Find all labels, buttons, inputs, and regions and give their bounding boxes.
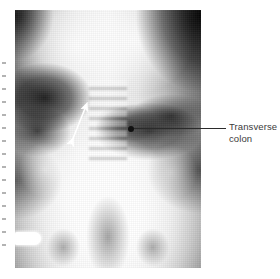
film-grain-overlay <box>15 10 201 268</box>
figure-root: Transverse colon <box>0 0 280 279</box>
transverse-colon-leader-line <box>134 128 226 129</box>
double-headed-arrow-icon <box>51 90 97 150</box>
transverse-colon-label: Transverse colon <box>229 121 280 144</box>
margin-text-column <box>0 62 9 248</box>
transverse-colon-label-line-2: colon <box>229 133 280 145</box>
transverse-colon-label-line-1: Transverse <box>229 121 280 133</box>
abdominal-radiograph <box>15 10 201 268</box>
transverse-colon-marker-dot <box>128 126 134 132</box>
radio-opaque-side-marker <box>15 232 41 245</box>
